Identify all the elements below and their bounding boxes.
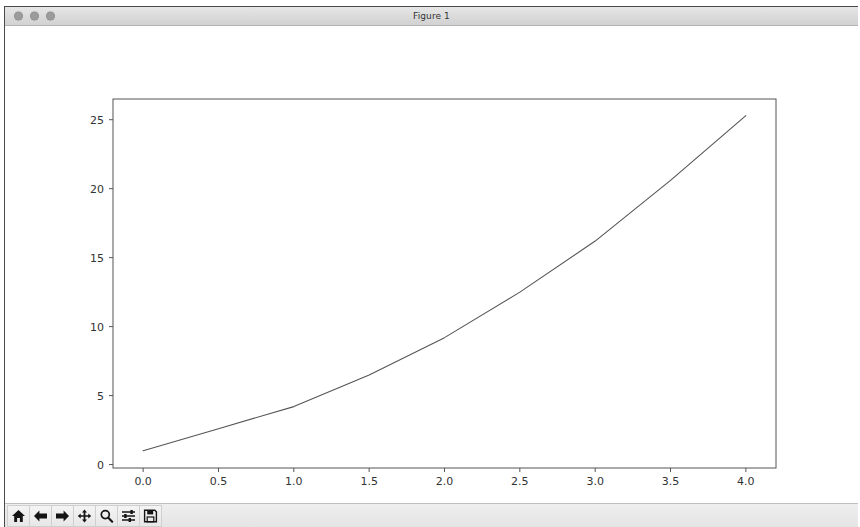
configure-subplots-button[interactable] bbox=[117, 505, 140, 527]
y-tick-label: 5 bbox=[97, 390, 104, 403]
x-tick-label: 2.5 bbox=[511, 475, 529, 488]
y-tick-label: 15 bbox=[90, 252, 104, 265]
pan-button[interactable] bbox=[73, 505, 96, 527]
arrow-left-icon bbox=[33, 509, 48, 523]
forward-button[interactable] bbox=[51, 505, 74, 527]
y-tick-label: 25 bbox=[90, 114, 104, 127]
screen-root: Figure 1 0.00.51.01.52.02.53.03.54.00510… bbox=[0, 0, 860, 527]
axes-spines bbox=[113, 99, 776, 468]
window-title: Figure 1 bbox=[5, 11, 858, 21]
x-tick-label: 1.5 bbox=[360, 475, 378, 488]
x-tick-label: 3.0 bbox=[586, 475, 604, 488]
home-icon bbox=[11, 509, 26, 523]
floppy-disk-icon bbox=[143, 509, 158, 523]
x-tick-label: 4.0 bbox=[737, 475, 755, 488]
x-tick-label: 2.0 bbox=[436, 475, 454, 488]
x-tick-label: 0.5 bbox=[210, 475, 228, 488]
sliders-icon bbox=[121, 509, 136, 523]
x-tick-label: 1.0 bbox=[285, 475, 303, 488]
save-button[interactable] bbox=[139, 505, 162, 527]
home-button[interactable] bbox=[7, 505, 30, 527]
move-cross-icon bbox=[77, 509, 92, 523]
x-tick-label: 0.0 bbox=[134, 475, 152, 488]
x-tick-label: 3.5 bbox=[662, 475, 680, 488]
y-tick-label: 10 bbox=[90, 321, 104, 334]
figure-canvas[interactable]: 0.00.51.01.52.02.53.03.54.00510152025 bbox=[5, 26, 858, 503]
figure-window: Figure 1 0.00.51.01.52.02.53.03.54.00510… bbox=[4, 6, 858, 527]
magnifier-icon bbox=[99, 509, 114, 523]
window-titlebar: Figure 1 bbox=[5, 7, 858, 26]
plot-svg: 0.00.51.01.52.02.53.03.54.00510152025 bbox=[5, 26, 858, 503]
arrow-right-icon bbox=[55, 509, 70, 523]
zoom-button[interactable] bbox=[95, 505, 118, 527]
y-tick-label: 20 bbox=[90, 183, 104, 196]
back-button[interactable] bbox=[29, 505, 52, 527]
navigation-toolbar bbox=[5, 503, 858, 527]
data-line-series-1 bbox=[143, 116, 746, 451]
y-tick-label: 0 bbox=[97, 459, 104, 472]
